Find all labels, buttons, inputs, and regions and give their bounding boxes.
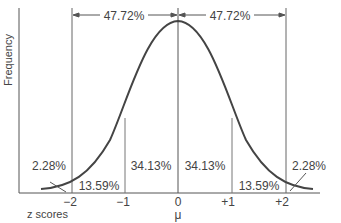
normal-curve-diagram: 47.72% 47.72% 34.13% 34.13% 13.59% 13.59…: [0, 0, 341, 223]
span-left-label: 47.72%: [104, 9, 145, 23]
center-right-label: 34.13%: [185, 159, 226, 173]
mid-right-label: 13.59%: [239, 179, 280, 193]
bell-curve: [41, 21, 313, 189]
x-axis-label: z scores: [27, 208, 68, 220]
tick-plus1: +1: [221, 195, 235, 209]
tail-right-label: 2.28%: [292, 159, 326, 173]
tick-plus2: +2: [275, 195, 289, 209]
mid-left-label: 13.59%: [79, 179, 120, 193]
tail-left-label: 2.28%: [32, 159, 66, 173]
tick-zero: 0: [175, 195, 182, 209]
mean-label: μ: [175, 208, 182, 222]
tick-minus1: −1: [116, 195, 130, 209]
center-left-label: 34.13%: [131, 159, 172, 173]
y-axis-label: Frequency: [2, 34, 14, 86]
tick-minus2: −2: [63, 195, 77, 209]
span-right-label: 47.72%: [210, 9, 251, 23]
